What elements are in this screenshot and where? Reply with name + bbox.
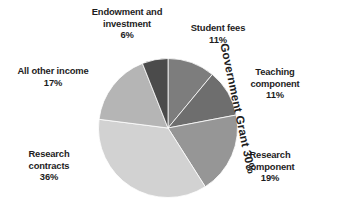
pie-chart-graphic [98,58,238,198]
pie-chart-figure: Endowment and investment 6% Student fees… [0,0,338,214]
slice-label-value: 11% [176,34,260,46]
slice-label-all-other-income: All other income 17% [4,65,102,88]
slice-label-line-1: Teaching [236,66,314,78]
pie-slice-group [98,59,237,198]
slice-label-line-2: component [236,78,314,90]
slice-label-line-1: Student fees [176,22,260,34]
slice-label-line-2: contracts [8,160,90,172]
slice-label-line-1: Research [8,148,90,160]
slice-label-student-fees: Student fees 11% [176,22,260,45]
pie-svg [98,58,238,198]
slice-label-line-1: All other income [4,65,102,77]
slice-label-teaching-component: Teaching component 11% [236,66,314,101]
slice-label-value: 17% [4,77,102,89]
slice-label-value: 36% [8,171,90,183]
slice-label-value: 19% [231,172,309,184]
slice-label-value: 11% [236,89,314,101]
slice-label-line-1: Endowment and [75,6,179,18]
slice-label-endowment-and-investment: Endowment and investment 6% [75,6,179,41]
slice-label-value: 6% [75,29,179,41]
slice-label-research-contracts: Research contracts 36% [8,148,90,183]
slice-label-line-2: investment [75,18,179,30]
